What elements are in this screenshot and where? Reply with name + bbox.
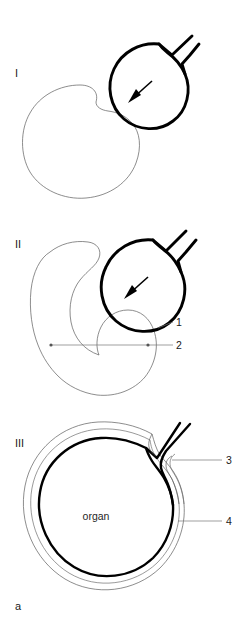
callout-number-3: 3 <box>226 454 232 466</box>
balloon-neck-outer-panel-two <box>153 231 186 251</box>
figure-container: I II <box>0 0 243 630</box>
callout-number-4: 4 <box>226 515 232 527</box>
direction-arrow-panel-two <box>124 277 148 299</box>
neck-inner-wall-panel-three <box>161 424 190 505</box>
balloon-circle-panel-one <box>110 44 188 129</box>
inner-sheath-ring-panel-three <box>31 429 180 583</box>
direction-arrow-panel-one <box>128 81 152 103</box>
organ-outline-panel-two <box>30 241 156 395</box>
panel-two-label: II <box>15 238 21 250</box>
anatomical-diagram: I II <box>0 0 243 630</box>
callout-point-2 <box>49 343 52 346</box>
panel-two-group: II 1 2 <box>15 231 196 395</box>
organ-wall-panel-three <box>39 438 173 576</box>
balloon-neck-outer-panel-one <box>159 36 192 55</box>
balloon-neck-inner-panel-two <box>178 240 196 272</box>
balloon-circle-panel-two <box>101 240 185 332</box>
panel-one-label: I <box>15 67 18 79</box>
organ-outline-panel-one <box>23 85 140 198</box>
balloon-neck-inner-panel-one <box>182 44 199 74</box>
callout-point-2b <box>146 343 149 346</box>
panel-one-group: I <box>15 36 199 198</box>
callout-number-2: 2 <box>176 339 182 351</box>
callout-number-1: 1 <box>176 316 182 328</box>
outer-sheath-ring-panel-three <box>23 422 184 590</box>
figure-letter-label: a <box>15 600 22 612</box>
panel-three-label: III <box>15 437 24 449</box>
panel-three-group: III organ 3 4 <box>15 422 232 590</box>
organ-text-label: organ <box>83 510 110 522</box>
